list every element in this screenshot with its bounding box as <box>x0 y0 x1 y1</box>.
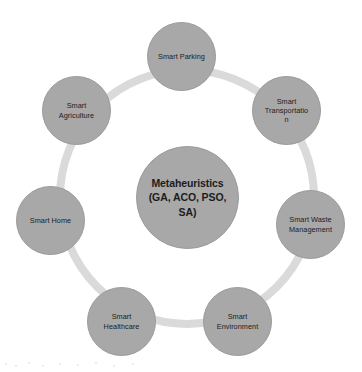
center-node-metaheuristics[interactable]: Metaheuristics (GA, ACO, PSO, SA) <box>136 146 239 249</box>
node-smart-healthcare[interactable]: Smart Healthcare <box>87 287 156 356</box>
node-smart-parking[interactable]: Smart Parking <box>147 22 216 91</box>
node-smart-parking-label: Smart Parking <box>155 52 208 61</box>
node-smart-healthcare-label: Smart Healthcare <box>101 312 143 331</box>
center-node-label: Metaheuristics (GA, ACO, PSO, SA) <box>146 176 230 218</box>
node-smart-transportation-label: Smart Transportatio n <box>262 97 311 125</box>
node-smart-environment-label: Smart Environment <box>214 312 262 331</box>
node-smart-home[interactable]: Smart Home <box>16 186 85 255</box>
node-smart-environment[interactable]: Smart Environment <box>203 287 272 356</box>
scan-artifact <box>2 360 152 369</box>
cycle-diagram: Metaheuristics (GA, ACO, PSO, SA) Smart … <box>0 0 362 372</box>
node-smart-agriculture[interactable]: Smart Agriculture <box>42 76 111 145</box>
node-smart-home-label: Smart Home <box>27 216 74 225</box>
node-smart-waste-management-label: Smart Waste Management <box>286 215 335 234</box>
node-smart-waste-management[interactable]: Smart Waste Management <box>276 190 345 259</box>
node-smart-agriculture-label: Smart Agriculture <box>56 101 97 120</box>
node-smart-transportation[interactable]: Smart Transportatio n <box>252 76 321 145</box>
